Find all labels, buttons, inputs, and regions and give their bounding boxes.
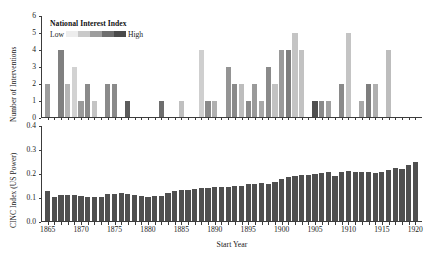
x-tick-mark bbox=[375, 222, 376, 225]
bar-interventions bbox=[212, 101, 217, 118]
bar-cinc bbox=[252, 184, 257, 222]
bar-cinc bbox=[92, 197, 97, 222]
x-tick-mark bbox=[108, 222, 109, 225]
bar-interventions bbox=[346, 33, 351, 118]
bar-interventions bbox=[299, 50, 304, 118]
x-tick-mark bbox=[88, 222, 89, 225]
x-tick-mark bbox=[61, 118, 62, 120]
bar-interventions bbox=[239, 84, 244, 118]
x-tick-mark bbox=[221, 118, 222, 120]
x-tick-mark bbox=[208, 118, 209, 120]
bar-cinc bbox=[172, 191, 177, 222]
x-tick-mark bbox=[141, 222, 142, 225]
bar-cinc bbox=[145, 197, 150, 222]
bar-cinc bbox=[212, 187, 217, 222]
x-tick-label: 1865 bbox=[40, 226, 55, 234]
x-tick-mark bbox=[322, 222, 323, 225]
x-tick-mark bbox=[201, 118, 202, 120]
bar-interventions bbox=[199, 50, 204, 118]
x-tick-mark bbox=[315, 222, 316, 225]
x-tick-mark bbox=[375, 118, 376, 120]
legend-swatch bbox=[66, 31, 78, 37]
x-tick-mark bbox=[295, 118, 296, 120]
bar-cinc bbox=[379, 172, 384, 222]
bar-interventions bbox=[312, 101, 317, 118]
x-tick-mark bbox=[155, 118, 156, 120]
x-tick-mark bbox=[81, 222, 82, 225]
x-tick-mark bbox=[402, 222, 403, 225]
bar-cinc bbox=[332, 176, 337, 222]
bar-interventions bbox=[286, 50, 291, 118]
bar-interventions bbox=[232, 84, 237, 118]
x-tick-mark bbox=[409, 222, 410, 225]
x-tick-mark bbox=[81, 118, 82, 120]
x-tick-mark bbox=[268, 118, 269, 120]
figure-interventions-and-cinc: Number of Interventions 0123456 National… bbox=[0, 0, 434, 256]
x-tick-mark bbox=[275, 118, 276, 120]
plot-area-cinc bbox=[41, 126, 422, 222]
bar-interventions bbox=[272, 84, 277, 118]
legend-swatch bbox=[102, 31, 114, 37]
x-tick-mark bbox=[148, 222, 149, 225]
x-tick-label: 1920 bbox=[408, 226, 423, 234]
x-tick-label: 1915 bbox=[374, 226, 389, 234]
y-axis-label-cinc: CINC Index (US Power) bbox=[9, 153, 18, 228]
x-tick-mark bbox=[328, 222, 329, 225]
legend-gradient-row: Low High bbox=[50, 30, 143, 39]
x-tick-mark bbox=[302, 118, 303, 120]
bar-cinc bbox=[319, 173, 324, 222]
bar-cinc bbox=[159, 196, 164, 222]
bar-cinc bbox=[132, 195, 137, 222]
bar-interventions bbox=[92, 101, 97, 118]
bar-cinc bbox=[105, 194, 110, 222]
bar-interventions bbox=[292, 33, 297, 118]
x-tick-mark bbox=[248, 118, 249, 120]
x-tick-mark bbox=[395, 222, 396, 225]
x-tick-mark bbox=[201, 222, 202, 225]
x-tick-mark bbox=[235, 222, 236, 225]
bar-cinc bbox=[359, 172, 364, 222]
y-tick-label: 0.3 bbox=[0, 146, 39, 154]
y-tick-label: 2 bbox=[0, 80, 39, 88]
bar-cinc bbox=[112, 194, 117, 222]
x-tick-mark bbox=[141, 118, 142, 120]
bar-interventions bbox=[205, 101, 210, 118]
x-tick-mark bbox=[295, 222, 296, 225]
bar-interventions bbox=[246, 101, 251, 118]
x-tick-mark bbox=[128, 118, 129, 120]
bar-cinc bbox=[373, 173, 378, 222]
bar-interventions bbox=[279, 50, 284, 118]
x-tick-mark bbox=[121, 222, 122, 225]
x-tick-mark bbox=[342, 118, 343, 120]
x-tick-mark bbox=[68, 222, 69, 225]
x-tick-mark bbox=[335, 222, 336, 225]
bar-cinc bbox=[185, 190, 190, 222]
x-tick-mark bbox=[74, 118, 75, 120]
bar-interventions bbox=[226, 67, 231, 118]
bar-interventions bbox=[266, 67, 271, 118]
x-tick-mark bbox=[94, 222, 95, 225]
x-tick-mark bbox=[415, 222, 416, 225]
bar-interventions bbox=[179, 101, 184, 118]
x-tick-mark bbox=[128, 222, 129, 225]
x-tick-mark bbox=[255, 118, 256, 120]
bar-interventions bbox=[112, 84, 117, 118]
x-tick-mark bbox=[308, 118, 309, 120]
legend-swatch bbox=[78, 31, 90, 37]
x-axis-title: Start Year bbox=[217, 240, 248, 249]
x-tick-mark bbox=[262, 222, 263, 225]
x-tick-mark bbox=[161, 118, 162, 120]
bar-cinc bbox=[306, 175, 311, 222]
bar-cinc bbox=[393, 168, 398, 222]
x-tick-label: 1880 bbox=[140, 226, 155, 234]
x-tick-mark bbox=[355, 222, 356, 225]
x-tick-mark bbox=[148, 118, 149, 120]
bar-cinc bbox=[259, 183, 264, 222]
bar-cinc bbox=[199, 188, 204, 222]
x-tick-mark bbox=[115, 118, 116, 120]
legend-swatch bbox=[114, 31, 126, 37]
x-tick-mark bbox=[248, 222, 249, 225]
bar-cinc bbox=[72, 195, 77, 222]
x-tick-mark bbox=[195, 222, 196, 225]
x-tick-mark bbox=[382, 118, 383, 120]
